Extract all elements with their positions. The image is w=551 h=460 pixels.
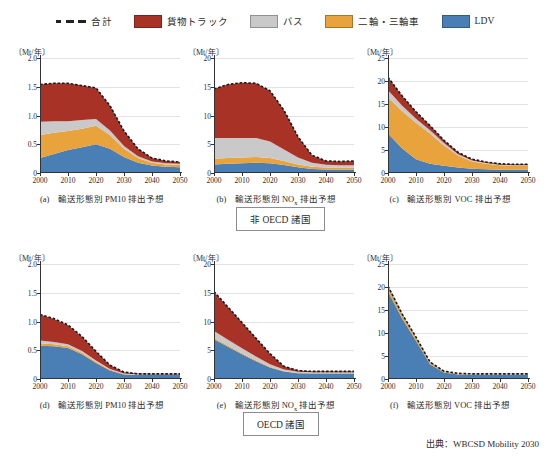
y-tick-mark: [211, 293, 214, 294]
y-tick-mark: [385, 287, 388, 288]
y-tick-mark: [385, 81, 388, 82]
x-tick-label: 2040: [493, 176, 508, 185]
x-tick-mark: [40, 173, 41, 176]
y-tick-label: 1.0: [28, 317, 37, 326]
chart-caption-d: (d) 輸送形態別 PM10 排出予想: [12, 398, 192, 410]
y-tick-label: 20: [378, 77, 386, 86]
plot-area-f: 0510152025200020102020203020402050: [388, 264, 528, 379]
chart-panel-b: 〔Mt/年〕05101520200020102020203020402050(b…: [186, 46, 366, 211]
x-tick-label: 2030: [465, 176, 480, 185]
y-tick-mark: [211, 116, 214, 117]
y-tick-mark: [385, 356, 388, 357]
chart-panel-f: 〔Mt/年〕0510152025200020102020203020402050…: [360, 252, 540, 417]
chart-caption-c: (c) 輸送形態別 VOC 排出予想: [360, 192, 540, 204]
x-tick-label: 2000: [381, 176, 396, 185]
x-tick-mark: [242, 379, 243, 382]
x-tick-mark: [152, 379, 153, 382]
y-tick-label: 20: [204, 54, 212, 63]
x-tick-label: 2040: [319, 176, 334, 185]
chart-panel-a: 〔Mt/年〕00.51.01.52.0200020102020203020402…: [12, 46, 192, 211]
x-tick-label: 2030: [291, 382, 306, 391]
x-tick-mark: [68, 379, 69, 382]
x-axis: [40, 378, 182, 379]
chart-caption-e: (e) 輸送形態別 NOx 排出予想: [186, 398, 366, 412]
y-tick-mark: [37, 87, 40, 88]
x-tick-label: 2040: [319, 382, 334, 391]
chart-panel-c: 〔Mt/年〕0510152025200020102020203020402050…: [360, 46, 540, 211]
x-tick-label: 2040: [493, 382, 508, 391]
color-swatch-icon: [134, 15, 162, 28]
legend-item-two-three-wheeler: 二輪・三輪車: [325, 14, 419, 28]
y-tick-mark: [211, 350, 214, 351]
y-tick-mark: [385, 333, 388, 334]
x-tick-mark: [180, 173, 181, 176]
legend-item-bus: バス: [250, 14, 303, 28]
x-tick-label: 2030: [117, 176, 132, 185]
x-tick-mark: [354, 173, 355, 176]
plot-area-e: 05101520200020102020203020402050: [214, 264, 354, 379]
x-tick-mark: [444, 379, 445, 382]
y-tick-mark: [385, 104, 388, 105]
x-tick-label: 2050: [521, 382, 536, 391]
x-tick-mark: [68, 173, 69, 176]
x-axis: [214, 378, 356, 379]
x-tick-mark: [270, 173, 271, 176]
x-tick-label: 2010: [235, 176, 250, 185]
x-axis: [388, 172, 530, 173]
x-tick-mark: [214, 379, 215, 382]
y-tick-mark: [37, 293, 40, 294]
y-tick-label: 1.5: [28, 82, 37, 91]
y-tick-mark: [37, 116, 40, 117]
y-tick-label: 15: [204, 82, 212, 91]
x-tick-mark: [96, 173, 97, 176]
dashed-line-icon: [56, 16, 86, 27]
x-tick-mark: [472, 173, 473, 176]
y-tick-label: 25: [378, 260, 386, 269]
stacked-area-a: [40, 58, 180, 173]
x-tick-label: 2010: [235, 382, 250, 391]
y-tick-mark: [37, 350, 40, 351]
x-tick-label: 2040: [145, 382, 160, 391]
y-tick-mark: [385, 264, 388, 265]
y-tick-label: 10: [378, 329, 386, 338]
chart-caption-a: (a) 輸送形態別 PM10 排出予想: [12, 192, 192, 204]
x-tick-mark: [354, 379, 355, 382]
stacked-area-e: [214, 264, 354, 379]
y-axis: [214, 261, 215, 379]
chart-legend: 合計 貨物トラック バス 二輪・三輪車 LDV: [0, 8, 551, 34]
x-tick-mark: [242, 173, 243, 176]
x-tick-mark: [214, 173, 215, 176]
y-tick-mark: [211, 264, 214, 265]
y-tick-label: 25: [378, 54, 386, 63]
x-tick-mark: [500, 379, 501, 382]
x-tick-mark: [528, 379, 529, 382]
stacked-area-f: [388, 264, 528, 379]
y-tick-label: 15: [378, 100, 386, 109]
legend-label-ldv: LDV: [475, 16, 495, 26]
x-tick-mark: [298, 379, 299, 382]
x-tick-mark: [388, 379, 389, 382]
x-tick-mark: [528, 173, 529, 176]
chart-caption-b: (b) 輸送形態別 NOx 排出予想: [186, 192, 366, 206]
y-tick-label: 10: [204, 111, 212, 120]
legend-item-ldv: LDV: [442, 15, 495, 28]
color-swatch-icon: [442, 15, 470, 28]
x-tick-mark: [500, 173, 501, 176]
x-tick-label: 2010: [61, 176, 76, 185]
chart-panel-d: 〔Mt/年〕00.51.01.52.0200020102020203020402…: [12, 252, 192, 417]
y-axis: [214, 55, 215, 173]
y-tick-mark: [385, 150, 388, 151]
y-tick-mark: [211, 322, 214, 323]
chart-caption-f: (f) 輸送形態別 VOC 排出予想: [360, 398, 540, 410]
x-tick-label: 2000: [33, 382, 48, 391]
x-tick-mark: [416, 173, 417, 176]
y-tick-label: 10: [204, 317, 212, 326]
x-tick-label: 2000: [207, 382, 222, 391]
x-tick-label: 2050: [521, 176, 536, 185]
y-tick-mark: [385, 310, 388, 311]
y-tick-label: 0.5: [28, 346, 37, 355]
group-label-oecd: OECD 諸国: [243, 412, 319, 436]
y-tick-label: 2.0: [28, 260, 37, 269]
x-tick-mark: [270, 379, 271, 382]
y-tick-mark: [211, 87, 214, 88]
